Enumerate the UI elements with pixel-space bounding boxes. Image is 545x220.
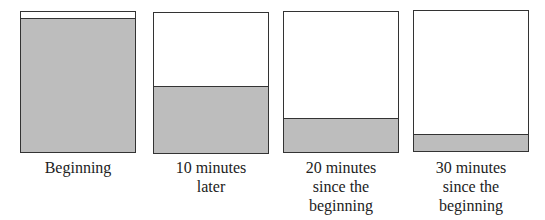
container-box [413,10,529,152]
panel-label: 30 minutes since the beginning [403,158,539,215]
panel-label: 10 minutes later [143,158,279,196]
container-box [153,12,269,154]
container-box [20,11,136,153]
liquid-fill [414,134,528,151]
container-box [283,11,399,153]
liquid-fill [154,86,268,153]
liquid-fill [284,118,398,152]
panel-label: Beginning [10,158,146,177]
liquid-fill [21,18,135,152]
panel-label: 20 minutes since the beginning [273,158,409,215]
